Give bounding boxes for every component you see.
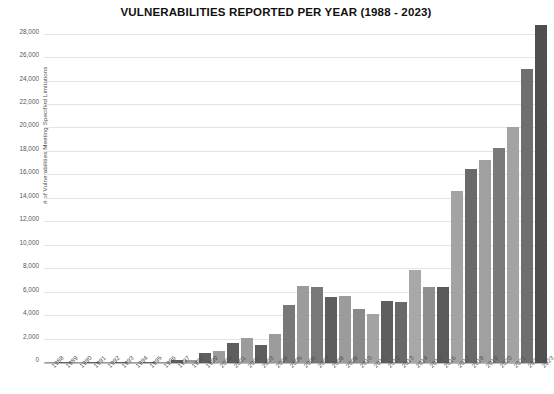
y-axis-tick-label: 18,000	[0, 145, 39, 152]
bar	[409, 270, 421, 363]
y-axis-tick-label: 4,000	[0, 309, 39, 316]
y-axis-tick-label: 22,000	[0, 98, 39, 105]
plot-area	[44, 25, 548, 363]
bar	[381, 301, 393, 363]
bar	[521, 69, 533, 363]
gridline	[44, 104, 548, 105]
bar	[465, 169, 477, 363]
y-axis-tick-label: 8,000	[0, 262, 39, 269]
bar	[507, 127, 519, 363]
gridline	[44, 127, 548, 128]
gridline	[44, 34, 548, 35]
bar	[311, 287, 323, 363]
y-axis-tick-labels: 02,0004,0006,0008,00010,00012,00014,0001…	[0, 25, 42, 363]
y-axis-tick-label: 0	[0, 356, 39, 363]
bar	[437, 287, 449, 363]
bar	[297, 286, 309, 364]
gridline	[44, 81, 548, 82]
y-axis-tick-label: 26,000	[0, 51, 39, 58]
chart-title: VULNERABILITIES REPORTED PER YEAR (1988 …	[0, 6, 552, 18]
x-axis-tick-labels: 1988198919901991199219931994199519961997…	[44, 364, 548, 394]
y-axis-tick-label: 20,000	[0, 121, 39, 128]
y-axis-tick-label: 6,000	[0, 286, 39, 293]
bar	[325, 297, 337, 363]
y-axis-tick-label: 10,000	[0, 239, 39, 246]
bar	[423, 287, 435, 363]
bar	[535, 25, 547, 363]
y-axis-tick-label: 2,000	[0, 333, 39, 340]
gridline	[44, 57, 548, 58]
bar	[479, 160, 491, 363]
bar	[339, 296, 351, 363]
y-axis-tick-label: 28,000	[0, 28, 39, 35]
bar	[493, 148, 505, 363]
gridline	[44, 151, 548, 152]
y-axis-tick-label: 14,000	[0, 192, 39, 199]
y-axis-tick-label: 16,000	[0, 168, 39, 175]
y-axis-tick-label: 24,000	[0, 75, 39, 82]
y-axis-tick-label: 12,000	[0, 215, 39, 222]
bar	[451, 191, 463, 363]
